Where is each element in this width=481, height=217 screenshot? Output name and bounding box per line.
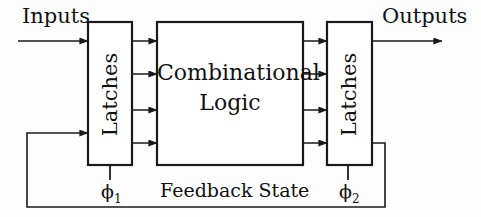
phi2-subscript: 2 — [352, 192, 360, 206]
phi1-glyph: ϕ — [101, 180, 114, 202]
phi1-subscript: 1 — [114, 192, 122, 206]
latches-left-label: Latches — [100, 45, 121, 145]
combinational-logic-label-line1: Combinational — [157, 62, 303, 84]
block-diagram: Inputs Outputs Combinational Logic Latch… — [0, 0, 481, 217]
inputs-label: Inputs — [22, 6, 90, 27]
outputs-label: Outputs — [382, 6, 467, 27]
combinational-logic-label-line2: Logic — [157, 92, 303, 114]
feedback-state-label: Feedback State — [160, 181, 300, 200]
phi2-clock-label: ϕ2 — [339, 182, 360, 205]
phi2-glyph: ϕ — [339, 180, 352, 202]
phi1-clock-label: ϕ1 — [101, 182, 122, 205]
latches-right-label: Latches — [339, 45, 360, 145]
